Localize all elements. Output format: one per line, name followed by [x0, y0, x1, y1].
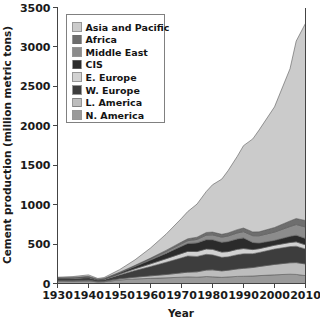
legend-swatch-middle-east	[73, 48, 82, 57]
legend-label-africa: Africa	[86, 34, 117, 45]
x-axis-title: Year	[167, 307, 195, 319]
x-tick-label-1990: 1990	[228, 289, 259, 302]
legend-swatch-l-america	[73, 98, 82, 107]
chart-legend: Asia and PacificAfricaMiddle EastCISE. E…	[67, 15, 170, 123]
chart-figure: 193019401950196019701980199020002010 050…	[0, 0, 320, 321]
legend-label-w-europe: W. Europe	[86, 85, 140, 96]
y-axis-title: Cement production (million metric tons)	[1, 26, 13, 264]
legend-swatch-e-europe	[73, 73, 82, 82]
y-tick-label-3500: 3500	[20, 2, 51, 15]
x-tick-label-1950: 1950	[104, 289, 135, 302]
x-tick-label-2000: 2000	[259, 289, 290, 302]
y-tick-label-2000: 2000	[20, 120, 51, 133]
x-tick-label-1930: 1930	[42, 289, 73, 302]
y-tick-label-3000: 3000	[20, 41, 51, 54]
y-tick-label-1500: 1500	[20, 159, 51, 172]
y-tick-label-500: 500	[28, 238, 51, 251]
legend-label-l-america: L. America	[86, 97, 143, 108]
legend-swatch-asia-and-pacific	[73, 23, 82, 32]
legend-swatch-w-europe	[73, 86, 82, 95]
legend-label-n-america: N. America	[86, 110, 145, 121]
y-tick-label-0: 0	[43, 278, 51, 291]
y-axis-tick-labels: 0500100015002000250030003500	[20, 2, 51, 291]
y-tick-label-1000: 1000	[20, 199, 51, 212]
legend-swatch-n-america	[73, 111, 82, 120]
legend-swatch-cis	[73, 60, 82, 69]
x-tick-label-1940: 1940	[73, 289, 104, 302]
cement-production-stacked-area-chart: 193019401950196019701980199020002010 050…	[0, 0, 320, 321]
legend-swatch-africa	[73, 35, 82, 44]
x-tick-label-1980: 1980	[197, 289, 228, 302]
x-axis-tick-labels: 193019401950196019701980199020002010	[42, 289, 320, 302]
x-tick-label-1970: 1970	[166, 289, 197, 302]
y-tick-label-2500: 2500	[20, 80, 51, 93]
x-tick-label-2010: 2010	[290, 289, 320, 302]
legend-label-middle-east: Middle East	[86, 47, 149, 58]
legend-label-e-europe: E. Europe	[86, 72, 137, 83]
legend-label-asia-and-pacific: Asia and Pacific	[86, 22, 170, 33]
x-tick-label-1960: 1960	[135, 289, 166, 302]
legend-label-cis: CIS	[86, 59, 104, 70]
